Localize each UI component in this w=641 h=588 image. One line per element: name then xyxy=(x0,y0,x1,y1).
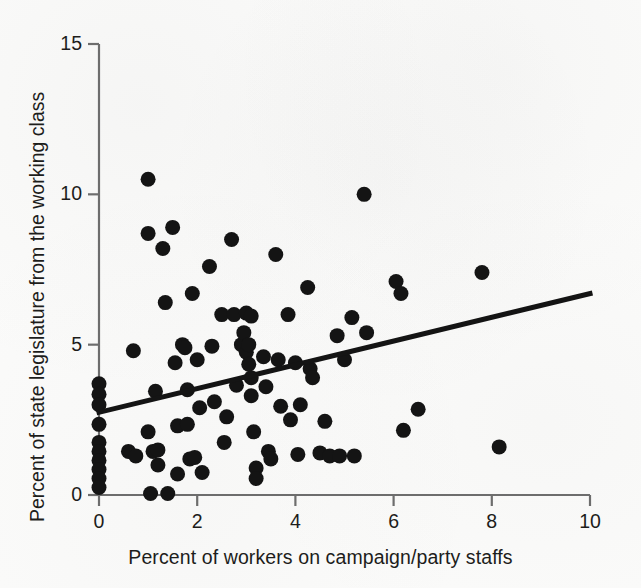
data-point xyxy=(474,265,489,280)
data-point xyxy=(411,402,426,417)
data-point xyxy=(180,417,195,432)
data-point xyxy=(92,417,107,432)
data-point xyxy=(258,379,273,394)
data-point xyxy=(330,328,345,343)
data-point xyxy=(244,309,259,324)
data-point xyxy=(396,423,411,438)
y-tick-label: 10 xyxy=(40,182,82,205)
data-point xyxy=(158,295,173,310)
y-tick-label: 0 xyxy=(40,483,82,506)
data-point xyxy=(300,280,315,295)
data-point xyxy=(317,414,332,429)
data-point xyxy=(357,187,372,202)
data-point xyxy=(126,343,141,358)
data-point xyxy=(165,220,180,235)
data-point xyxy=(241,357,256,372)
data-point xyxy=(143,486,158,501)
data-point xyxy=(283,412,298,427)
scatter-plot-figure: Percent of state legislature from the wo… xyxy=(0,0,641,588)
data-point xyxy=(150,442,165,457)
y-axis-title-container: Percent of state legislature from the wo… xyxy=(0,0,36,588)
data-point xyxy=(217,435,232,450)
data-point xyxy=(141,424,156,439)
data-point xyxy=(246,424,261,439)
x-tick-label: 4 xyxy=(265,510,325,533)
data-point xyxy=(170,466,185,481)
data-point xyxy=(244,388,259,403)
data-point xyxy=(393,286,408,301)
data-point xyxy=(224,232,239,247)
data-point xyxy=(141,226,156,241)
x-tick-label: 0 xyxy=(69,510,129,533)
data-point xyxy=(332,448,347,463)
data-point xyxy=(271,352,286,367)
data-points xyxy=(92,172,507,501)
data-point xyxy=(177,340,192,355)
x-tick-label: 2 xyxy=(167,510,227,533)
data-point xyxy=(187,450,202,465)
data-point xyxy=(192,400,207,415)
data-point xyxy=(305,370,320,385)
data-point xyxy=(219,409,234,424)
data-point xyxy=(195,465,210,480)
data-point xyxy=(281,307,296,322)
data-point xyxy=(92,480,107,495)
plot-canvas xyxy=(0,0,641,588)
data-point xyxy=(344,310,359,325)
data-point xyxy=(268,247,283,262)
data-point xyxy=(155,241,170,256)
x-tick-label: 6 xyxy=(364,510,424,533)
data-point xyxy=(273,399,288,414)
data-point xyxy=(249,471,264,486)
data-point xyxy=(204,339,219,354)
axes xyxy=(88,44,590,506)
x-axis-title: Percent of workers on campaign/party sta… xyxy=(0,546,641,569)
data-point xyxy=(202,259,217,274)
y-tick-label: 15 xyxy=(40,32,82,55)
y-tick-label: 5 xyxy=(40,333,82,356)
data-point xyxy=(160,486,175,501)
data-point xyxy=(190,352,205,367)
x-tick-label: 8 xyxy=(462,510,522,533)
data-point xyxy=(141,172,156,187)
data-point xyxy=(263,451,278,466)
data-point xyxy=(492,439,507,454)
data-point xyxy=(256,349,271,364)
data-point xyxy=(207,394,222,409)
x-tick-label: 10 xyxy=(560,510,620,533)
data-point xyxy=(347,448,362,463)
data-point xyxy=(241,337,256,352)
data-point xyxy=(168,355,183,370)
regression-trendline xyxy=(99,294,590,413)
data-point xyxy=(128,448,143,463)
y-axis-title: Percent of state legislature from the wo… xyxy=(26,92,49,522)
data-point xyxy=(293,397,308,412)
data-point xyxy=(185,286,200,301)
data-point xyxy=(359,325,374,340)
data-point xyxy=(290,447,305,462)
data-point xyxy=(150,457,165,472)
